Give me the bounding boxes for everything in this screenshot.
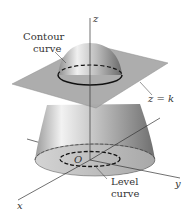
contour-label-1: Contour [23, 31, 65, 42]
y-axis-label: y [174, 178, 181, 189]
lower-surface [35, 104, 155, 176]
origin-label: O [74, 154, 82, 165]
level-label-2: curve [111, 188, 139, 199]
z-axis-label: z [92, 13, 99, 24]
plane-label: z = k [147, 93, 174, 104]
level-label-1: Level [111, 176, 138, 187]
x-axis-label: x [17, 200, 23, 211]
level-curve-diagram: Contour curve z = k O Level curve x y z [0, 0, 190, 219]
contour-label-2: curve [33, 43, 61, 54]
